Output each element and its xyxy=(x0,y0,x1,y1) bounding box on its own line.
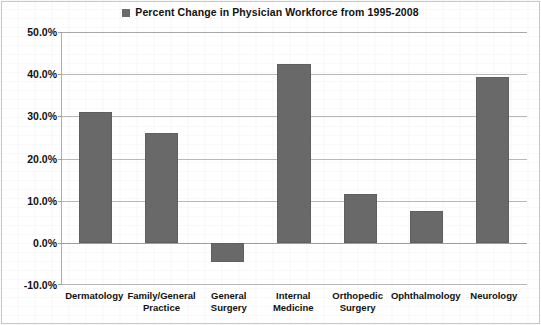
x-axis-tick-label: Dermatology xyxy=(62,290,126,323)
y-axis-tick-label: 40.0% xyxy=(3,68,57,80)
bar xyxy=(476,77,509,243)
y-axis-tick-label: 30.0% xyxy=(3,110,57,122)
bars-layer xyxy=(62,32,526,285)
x-axis-tick-label: Ophthalmology xyxy=(390,290,462,323)
bar xyxy=(211,243,244,262)
x-axis-tick-label: Internal Medicine xyxy=(261,290,325,323)
x-axis-tick-label: Neurology xyxy=(462,290,526,323)
x-axis: Dermatology Family/General Practice Gene… xyxy=(62,290,526,323)
chart-legend: Percent Change in Physician Workforce fr… xyxy=(0,6,541,18)
y-axis-tick-label: 10.0% xyxy=(3,195,57,207)
x-axis-tick-label: General Surgery xyxy=(197,290,261,323)
bar xyxy=(277,64,310,243)
bar xyxy=(344,194,377,242)
legend-label: Percent Change in Physician Workforce fr… xyxy=(135,6,418,18)
bar xyxy=(79,112,112,243)
bar xyxy=(410,211,443,243)
bar-chart-figure: Percent Change in Physician Workforce fr… xyxy=(0,0,541,325)
x-axis-tick-label: Orthopedic Surgery xyxy=(325,290,389,323)
y-axis-tick-label: -10.0% xyxy=(3,279,57,291)
y-axis-tick-label: 50.0% xyxy=(3,26,57,38)
legend-square-icon xyxy=(122,9,130,17)
y-axis-tick-label: 20.0% xyxy=(3,153,57,165)
x-axis-tick-label: Family/General Practice xyxy=(126,290,196,323)
y-axis-tick-label: 0.0% xyxy=(3,237,57,249)
bar xyxy=(145,133,178,243)
y-axis: 50.0% 40.0% 30.0% 20.0% 10.0% 0.0% -10.0… xyxy=(0,32,57,285)
